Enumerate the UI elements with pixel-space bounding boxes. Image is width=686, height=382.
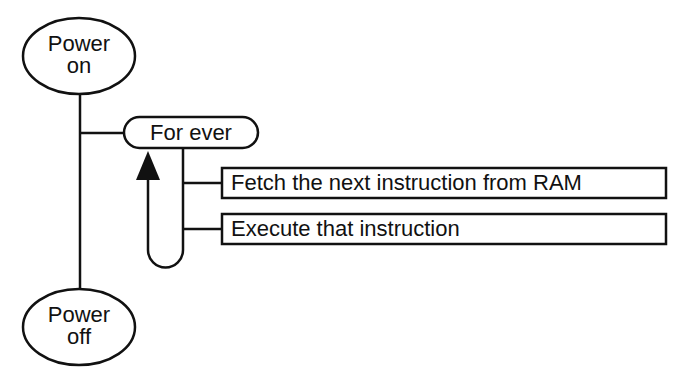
loop-label: For ever <box>124 122 258 144</box>
power-on-line2: on <box>23 55 135 77</box>
execute-label: Execute that instruction <box>231 218 460 240</box>
power-off-label: Power off <box>23 304 135 348</box>
power-on-line1: Power <box>23 33 135 55</box>
loop-arrowhead-icon <box>136 151 160 180</box>
power-off-line1: Power <box>23 304 135 326</box>
power-off-line2: off <box>23 326 135 348</box>
fetch-label: Fetch the next instruction from RAM <box>231 172 582 194</box>
power-on-label: Power on <box>23 33 135 77</box>
